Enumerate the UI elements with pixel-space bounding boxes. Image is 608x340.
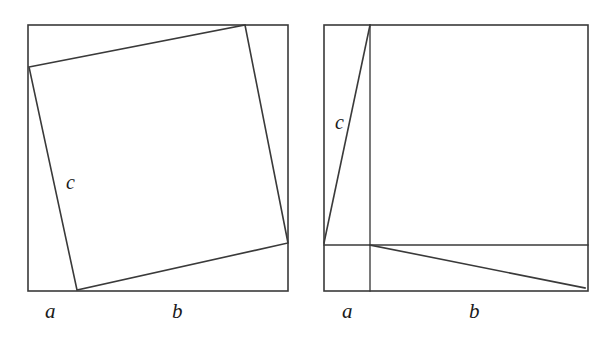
pythagorean-proof-figure: c a b c a b: [0, 0, 608, 340]
label-b-left: b: [172, 301, 183, 322]
label-b-right: b: [469, 301, 480, 322]
right-panel-background: [304, 0, 608, 340]
right-figure-panel: c a b: [304, 0, 608, 340]
left-figure-panel: c a b: [0, 0, 304, 340]
label-a-right: a: [342, 301, 353, 322]
right-figure-svg: [304, 0, 608, 340]
label-c-left: c: [66, 172, 75, 192]
left-figure-svg: [0, 0, 304, 340]
label-c-right: c: [335, 112, 344, 132]
left-panel-background: [0, 0, 304, 340]
label-a-left: a: [45, 301, 56, 322]
